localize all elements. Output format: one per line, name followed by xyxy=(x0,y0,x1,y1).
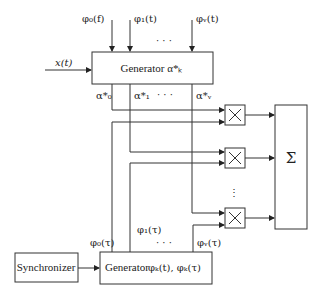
multiplier-ellipsis: ⋮ xyxy=(229,187,239,198)
top-generator-label: Generator α*ₖ xyxy=(121,62,184,74)
phi0-input-label: φ₀(f) xyxy=(82,13,105,24)
phi0tau-wire xyxy=(112,122,224,252)
top-input-ellipsis: · · · xyxy=(156,35,172,46)
multiplier-0 xyxy=(225,105,245,125)
phinu-input-label: φᵥ(t) xyxy=(196,13,219,24)
bottom-generator-label: Generator xyxy=(105,261,149,273)
multiplier-nu xyxy=(225,208,245,228)
phinutau-label: φᵥ(τ) xyxy=(197,237,221,248)
sigma-icon: Σ xyxy=(286,149,297,167)
alphanu-label: α*ᵥ xyxy=(196,90,212,101)
phi1tau-label: φ₁(τ) xyxy=(137,224,161,235)
phi1-input-label: φ₁(t) xyxy=(134,13,157,24)
signal-input-label: x(t) xyxy=(55,57,73,68)
bottom-generator-outputs: φₖ(t), φₖ(τ) xyxy=(148,262,201,273)
multiplier-1 xyxy=(225,148,245,168)
synchronizer-label: Synchronizer xyxy=(17,261,76,273)
bottom-ellipsis: · · · xyxy=(156,237,172,248)
alpha1-label: α*₁ xyxy=(134,90,150,101)
summer-block xyxy=(275,105,307,229)
top-inputs: φ₀(f) φ₁(t) · · · φᵥ(t) xyxy=(82,13,219,51)
alphanu-wire xyxy=(192,84,224,213)
phi0tau-label: φ₀(τ) xyxy=(90,237,114,248)
alpha0-label: α*₀ xyxy=(96,90,112,101)
alpha-ellipsis: · · · xyxy=(157,89,173,100)
correlator-block-diagram: φ₀(f) φ₁(t) · · · φᵥ(t) x(t) Generator α… xyxy=(0,0,320,298)
